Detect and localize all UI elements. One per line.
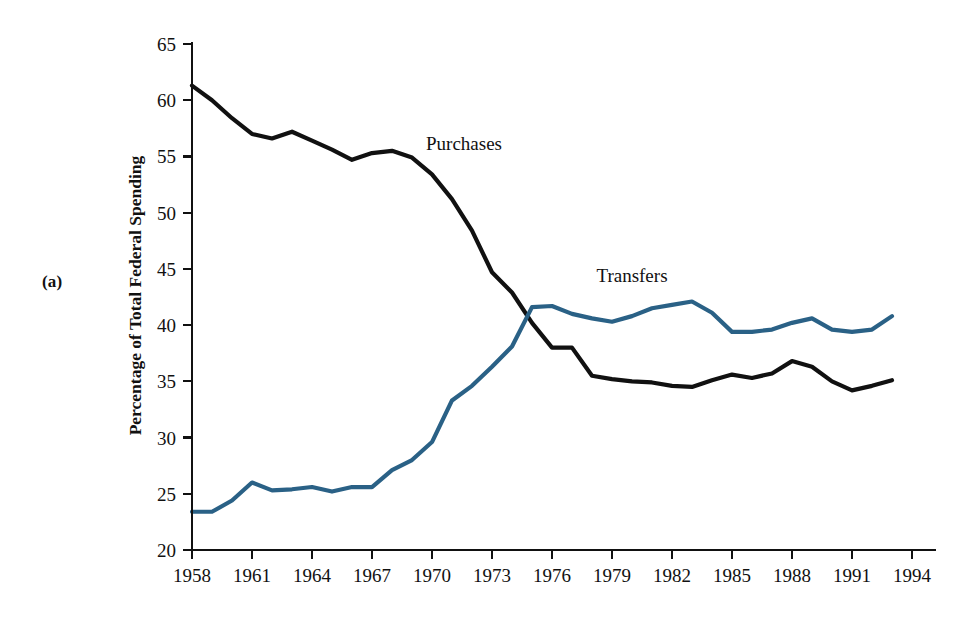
y-axis-tick-label: 65 bbox=[157, 34, 176, 55]
y-axis-tick-label: 30 bbox=[157, 428, 176, 449]
y-axis-tick-label: 35 bbox=[157, 371, 176, 392]
y-axis-tick-label: 40 bbox=[157, 315, 176, 336]
x-axis-tick-label: 1970 bbox=[413, 565, 451, 586]
line-chart-plot: 1958196119641967197019731976197919821985… bbox=[0, 0, 980, 627]
y-axis-tick-label: 50 bbox=[157, 203, 176, 224]
x-axis-tick-label: 1958 bbox=[173, 565, 211, 586]
x-axis-tick-label: 1967 bbox=[353, 565, 391, 586]
x-axis-tick-label: 1994 bbox=[893, 565, 932, 586]
y-axis-tick-labels: 20253035404550556065 bbox=[157, 34, 176, 561]
x-axis-tick-label: 1976 bbox=[533, 565, 571, 586]
y-axis-tick-label: 55 bbox=[157, 146, 176, 167]
x-axis-tick-label: 1973 bbox=[473, 565, 511, 586]
series-annotations: PurchasesTransfers bbox=[426, 133, 668, 287]
x-axis-tick-label: 1964 bbox=[293, 565, 332, 586]
series-label-purchases: Purchases bbox=[426, 133, 502, 154]
x-axis-tick-label: 1979 bbox=[593, 565, 631, 586]
x-axis-tick-label: 1988 bbox=[773, 565, 811, 586]
y-axis-tick-label: 20 bbox=[157, 540, 176, 561]
series-line-purchases bbox=[192, 86, 892, 391]
figure-panel-a: (a) Percentage of Total Federal Spending… bbox=[0, 0, 980, 627]
y-axis-tick-label: 25 bbox=[157, 484, 176, 505]
axes-group bbox=[183, 42, 936, 559]
x-axis-tick-label: 1961 bbox=[233, 565, 271, 586]
x-axis-tick-label: 1982 bbox=[653, 565, 691, 586]
series-label-transfers: Transfers bbox=[596, 265, 667, 286]
x-axis-tick-labels: 1958196119641967197019731976197919821985… bbox=[173, 565, 932, 586]
x-axis-tick-label: 1991 bbox=[833, 565, 871, 586]
x-axis-tick-label: 1985 bbox=[713, 565, 751, 586]
y-axis-tick-label: 45 bbox=[157, 259, 176, 280]
series-group bbox=[192, 86, 892, 512]
y-axis-tick-label: 60 bbox=[157, 90, 176, 111]
